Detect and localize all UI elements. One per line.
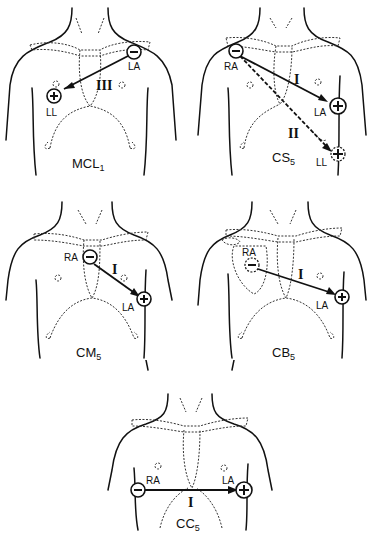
clavicles-sternum xyxy=(222,228,342,339)
arrowhead-icon xyxy=(64,82,75,89)
lead-label-I: I xyxy=(188,495,193,510)
electrode-label-RA: RA xyxy=(242,247,256,258)
lead-label-III: III xyxy=(96,78,112,93)
lead-I-line xyxy=(240,56,324,100)
panel-cc5: RA LA I CC5 xyxy=(94,360,282,538)
electrode-label-LA: LA xyxy=(128,61,141,72)
panel-cm5: RA LA I CM5 xyxy=(0,180,188,360)
electrode-RA-negative xyxy=(245,258,259,272)
electrode-LL-positive xyxy=(47,89,61,103)
torso-outline xyxy=(6,8,176,175)
panel-cb5: RA LA I CB5 xyxy=(188,180,376,360)
lead-label-I: I xyxy=(294,72,299,87)
electrode-LA-positive xyxy=(330,98,346,114)
electrode-LL-positive xyxy=(331,147,345,161)
torso-outline xyxy=(6,202,172,358)
electrode-RA-negative xyxy=(131,483,145,497)
lead-I-line xyxy=(258,269,332,293)
lead-label-II: II xyxy=(288,126,299,141)
electrode-LA-negative xyxy=(127,45,141,59)
electrode-label-RA: RA xyxy=(146,475,160,486)
arrowhead-icon xyxy=(326,287,336,295)
panel-title-cs5: CS5 xyxy=(272,150,295,167)
panel-title-cm5: CM5 xyxy=(76,345,101,360)
electrode-LA-positive xyxy=(137,292,151,306)
electrode-label-LA: LA xyxy=(316,300,329,311)
arrowhead-icon xyxy=(318,94,328,102)
electrode-label-LL: LL xyxy=(316,157,328,168)
clavicles-sternum xyxy=(34,232,148,339)
electrode-label-LA: LA xyxy=(122,302,135,313)
lead-label-I: I xyxy=(298,267,303,282)
panel-title-mcl1: MCL1 xyxy=(72,156,104,173)
electrode-RA-negative xyxy=(83,250,97,264)
electrode-RA-negative xyxy=(229,44,243,58)
lead-II-line xyxy=(240,56,328,148)
electrode-label-RA: RA xyxy=(224,61,238,72)
torso-outline xyxy=(198,202,366,358)
panel-cs5: RA LA LL I II CS5 xyxy=(188,0,376,180)
electrode-LA-positive xyxy=(335,290,349,304)
electrode-label-LA: LA xyxy=(222,475,235,486)
panel-title-cb5: CB5 xyxy=(272,345,295,360)
panel-mcl1: LA LL III MCL1 xyxy=(0,0,188,180)
electrode-label-LA: LA xyxy=(314,107,327,118)
electrode-label-LL: LL xyxy=(46,107,58,118)
electrode-LA-positive xyxy=(236,482,252,498)
clavicles-sternum xyxy=(132,418,248,528)
electrode-label-RA: RA xyxy=(64,252,78,263)
lead-label-I: I xyxy=(112,262,117,277)
panel-title-cc5: CC5 xyxy=(176,516,200,533)
